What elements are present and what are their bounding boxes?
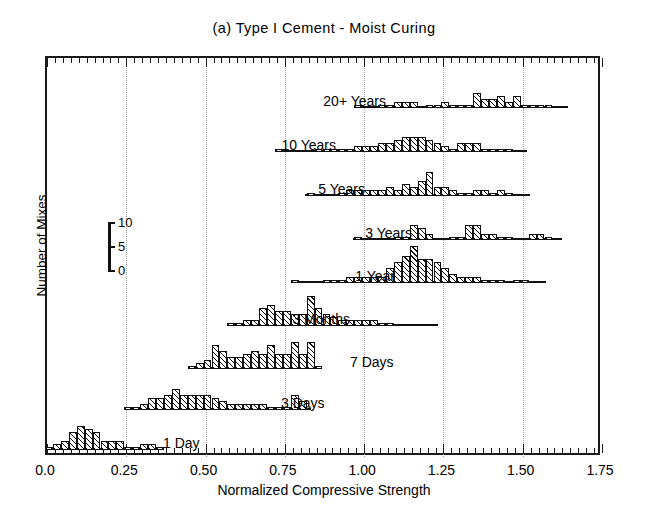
histogram-bar	[77, 426, 85, 450]
histogram-bar	[101, 441, 109, 450]
histogram-bar	[61, 441, 69, 450]
scale-tick-label: 10	[118, 217, 132, 228]
histogram-bar	[45, 447, 53, 450]
x-tick-label: 0.75	[269, 462, 296, 478]
histogram-row	[0, 0, 648, 450]
histogram-bar	[148, 444, 156, 450]
number-of-mixes-scale: 1050	[108, 222, 154, 270]
x-axis-title: Normalized Compressive Strength	[0, 482, 648, 498]
scale-tick	[108, 222, 115, 224]
figure-canvas: (a) Type I Cement - Moist Curing 0.00.25…	[0, 0, 648, 521]
histogram-bar	[85, 429, 93, 450]
histogram-bar	[124, 447, 132, 450]
histogram-bar	[93, 432, 101, 450]
x-tick-label: 0.0	[35, 462, 54, 478]
scale-tick	[108, 246, 115, 248]
histogram-bar	[53, 444, 61, 450]
x-tick-label: 1.25	[428, 462, 455, 478]
x-tick-label: 1.00	[349, 462, 376, 478]
histogram-bar	[140, 444, 148, 450]
x-tick-label: 1.75	[586, 462, 613, 478]
histogram-bar	[108, 441, 116, 450]
histogram-bar	[116, 441, 124, 450]
scale-tick-label: 5	[118, 241, 125, 252]
scale-tick	[108, 270, 115, 272]
x-tick-label: 1.50	[507, 462, 534, 478]
series-label: 1 Day	[163, 435, 200, 451]
histogram-bar	[69, 432, 77, 450]
scale-tick-label: 0	[118, 265, 125, 276]
x-tick-label: 0.25	[111, 462, 138, 478]
histogram-bar	[132, 447, 140, 450]
x-tick-label: 0.50	[190, 462, 217, 478]
y-axis-title: Number of Mixes	[34, 161, 49, 331]
